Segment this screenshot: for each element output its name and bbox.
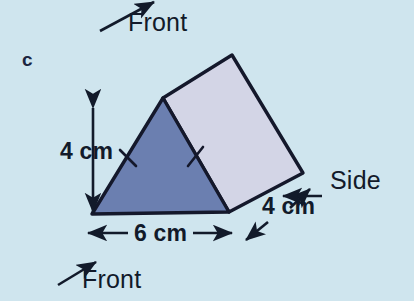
depth-dimension-label: 4 cm — [262, 195, 315, 218]
diagram-canvas: c Front Front Side 4 cm 6 cm 4 cm — [0, 0, 414, 301]
front-label-bottom: Front — [82, 267, 141, 292]
item-label-c: c — [22, 50, 33, 69]
front-label-top: Front — [128, 10, 187, 35]
base-dimension-label: 6 cm — [134, 222, 187, 245]
depth-dimension-arrow-lower — [246, 222, 268, 240]
side-label: Side — [330, 168, 381, 193]
height-dimension-label: 4 cm — [60, 140, 113, 163]
